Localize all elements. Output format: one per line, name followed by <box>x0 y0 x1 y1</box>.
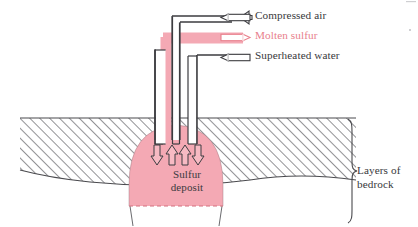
bedrock-label-line2: bedrock <box>357 178 415 192</box>
legend-label-molten-sulfur: Molten sulfur <box>255 29 318 41</box>
sulfur-deposit-label: Sulfur deposit <box>152 168 222 194</box>
bedrock-label-line1: Layers of <box>357 164 415 178</box>
sulfur-deposit-label-line1: Sulfur <box>152 168 222 181</box>
legend-arrow-molten-sulfur <box>221 34 250 40</box>
legend-label-superheated-water: Superheated water <box>255 49 340 61</box>
scan-artifact <box>406 1 416 31</box>
legend-label-compressed-air: Compressed air <box>255 9 326 21</box>
sulfur-mining-diagram: Compressed air Molten sulfur Superheated… <box>0 0 418 227</box>
sulfur-deposit-label-line2: deposit <box>152 181 222 194</box>
legend-arrow-superheated-water <box>221 54 250 60</box>
legend-arrow-compressed-air-body <box>221 14 250 20</box>
bedrock-label: Layers of bedrock <box>357 164 415 191</box>
